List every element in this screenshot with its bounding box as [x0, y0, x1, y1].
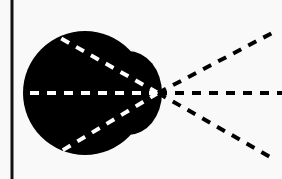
lens-ray-diagram — [0, 0, 282, 179]
